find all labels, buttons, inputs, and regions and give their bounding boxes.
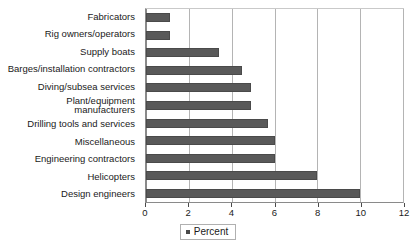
category-label: Rig owners/operators <box>0 26 140 44</box>
axis-tick-label: 12 <box>399 207 410 218</box>
bar-row <box>146 132 403 150</box>
bar-chart: FabricatorsRig owners/operatorsSupply bo… <box>0 0 416 245</box>
category-label: Plant/equipment manufacturers <box>0 96 140 116</box>
bar <box>146 119 268 128</box>
value-axis: 024681012 <box>145 203 404 219</box>
plot-area <box>145 8 404 203</box>
axis-tick-label: 6 <box>272 207 277 218</box>
category-label: Supply boats <box>0 43 140 61</box>
category-label: Design engineers <box>0 185 140 203</box>
category-axis: FabricatorsRig owners/operatorsSupply bo… <box>0 8 140 203</box>
bar-series-percent <box>146 9 403 202</box>
bar-row <box>146 114 403 132</box>
bar <box>146 189 360 198</box>
bar-row <box>146 27 403 45</box>
bar <box>146 13 170 22</box>
axis-tick-label: 4 <box>229 207 234 218</box>
category-label: Helicopters <box>0 168 140 186</box>
bar-row <box>146 79 403 97</box>
bar <box>146 66 242 75</box>
legend: Percent <box>0 224 416 240</box>
legend-box: Percent <box>180 224 236 240</box>
bar-row <box>146 184 403 202</box>
category-label: Diving/subsea services <box>0 78 140 96</box>
category-label: Engineering contractors <box>0 150 140 168</box>
bar-row <box>146 167 403 185</box>
legend-label: Percent <box>194 226 228 237</box>
axis-tick-label: 2 <box>186 207 191 218</box>
bar <box>146 83 251 92</box>
category-label: Barges/installation contractors <box>0 61 140 79</box>
bar <box>146 48 219 57</box>
category-label: Drilling tools and services <box>0 115 140 133</box>
bar <box>146 154 275 163</box>
bar-row <box>146 97 403 115</box>
bar <box>146 101 251 110</box>
bar <box>146 31 170 40</box>
bar <box>146 171 317 180</box>
category-label: Miscellaneous <box>0 133 140 151</box>
square-marker-icon <box>186 230 190 234</box>
gridline <box>403 9 404 202</box>
bar <box>146 136 275 145</box>
axis-tick-label: 0 <box>142 207 147 218</box>
bar-row <box>146 149 403 167</box>
axis-tick-label: 10 <box>356 207 367 218</box>
category-label: Fabricators <box>0 8 140 26</box>
axis-tick-label: 8 <box>315 207 320 218</box>
bar-row <box>146 62 403 80</box>
bar-row <box>146 44 403 62</box>
bar-row <box>146 9 403 27</box>
